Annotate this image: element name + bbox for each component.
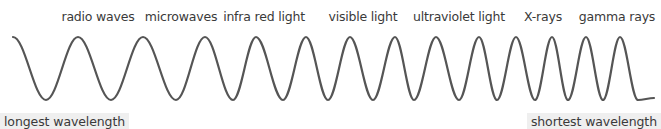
- band-label-radio-waves: radio waves: [61, 9, 134, 24]
- band-label-x-rays: X-rays: [524, 9, 562, 24]
- band-label-infra-red-light: infra red light: [223, 9, 305, 24]
- shortest-wavelength-label: shortest wavelength: [527, 113, 661, 129]
- band-label-gamma-rays: gamma rays: [579, 9, 655, 24]
- band-label-microwaves: microwaves: [145, 9, 218, 24]
- band-label-ultraviolet-light: ultraviolet light: [413, 9, 505, 24]
- longest-wavelength-label: longest wavelength: [0, 113, 129, 129]
- wave-curve: [13, 37, 654, 100]
- band-label-visible-light: visible light: [328, 9, 397, 24]
